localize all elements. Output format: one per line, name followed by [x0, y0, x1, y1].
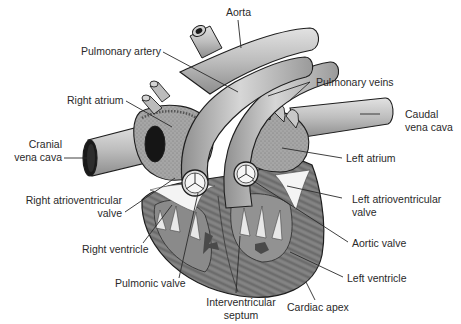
label-right-av-valve-line1: Right atrioventricular — [20, 194, 122, 206]
label-cranial-vena-cava-line1: Cranial — [10, 138, 62, 150]
label-left-av-valve-line1: Left atrioventricular — [352, 193, 441, 205]
label-aorta: Aorta — [226, 6, 251, 18]
label-aortic-valve: Aortic valve — [352, 237, 406, 249]
label-left-av-valve-line2: valve — [352, 206, 377, 218]
label-left-atrium: Left atrium — [346, 152, 396, 164]
label-pulmonary-artery: Pulmonary artery — [81, 45, 161, 57]
label-pulmonary-veins: Pulmonary veins — [316, 76, 394, 88]
label-pulmonic-valve: Pulmonic valve — [115, 277, 186, 289]
label-cardiac-apex: Cardiac apex — [287, 301, 349, 313]
label-right-atrium: Right atrium — [67, 94, 124, 106]
label-caudal-vena-cava-line1: Caudal — [405, 108, 438, 120]
label-cranial-vena-cava-line2: vena cava — [10, 151, 62, 163]
aortic-valve — [234, 162, 258, 186]
label-left-ventricle: Left ventricle — [347, 272, 407, 284]
label-right-ventricle: Right ventricle — [82, 243, 149, 255]
label-caudal-vena-cava-line2: vena cava — [405, 121, 453, 133]
label-interventricular-septum-line2: septum — [196, 309, 286, 321]
pulmonic-valve — [182, 170, 208, 196]
label-right-av-valve-line2: valve — [20, 207, 122, 219]
label-interventricular-septum-line1: Interventricular — [196, 296, 286, 308]
